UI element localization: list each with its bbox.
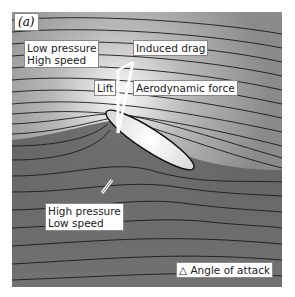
angle-of-attack-label: △ Angle of attack	[176, 262, 273, 278]
panel-label: (a)	[14, 13, 39, 31]
aerodynamic-force-label: Aerodynamic force	[133, 80, 238, 96]
induced-drag-label: Induced drag	[133, 40, 208, 56]
high-pressure-text: High pressure	[48, 205, 121, 217]
high-pressure-label: High pressure Low speed	[45, 203, 124, 231]
high-speed-text: High speed	[27, 54, 96, 66]
low-pressure-label: Low pressure High speed	[24, 40, 99, 68]
angle-of-attack-text: Angle of attack	[190, 264, 270, 276]
low-pressure-text: Low pressure	[27, 42, 96, 54]
lift-label: Lift	[94, 80, 116, 96]
low-speed-text: Low speed	[48, 217, 121, 229]
angle-icon: △	[179, 264, 187, 276]
